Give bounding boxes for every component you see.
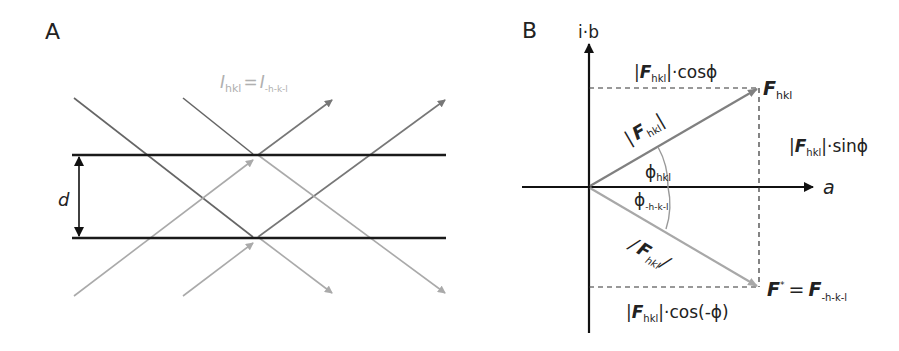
vector-F-friedel [590,188,757,286]
diffracted-ray-friedel-2 [258,237,332,293]
real-axis-label: a [823,176,835,198]
incident-ray-2 [183,98,253,154]
panel-b: B i·b a Fhkl F*=F-h-k-l |Fhkl| /Fhkl/ ϕh… [522,18,868,333]
incident-ray-1 [74,98,253,237]
incident-ray-friedel-2 [183,243,253,296]
diffracted-ray-2 [258,100,445,237]
figure: A Ihkl=I-h-k-l d B i·b a [0,0,899,351]
vector-F-hkl [590,89,757,186]
phase-hkl-label: ϕhkl [645,162,671,183]
panel-b-label: B [522,18,537,43]
cos-bottom-label: |Fhkl|·cos(-ϕ) [626,302,729,324]
F-hkl-label: Fhkl [763,77,792,102]
F-friedel-label: F*=F-h-k-l [767,278,847,303]
cos-top-label: |Fhkl|·cosϕ [634,62,717,84]
d-spacing-label: d [58,189,70,210]
panel-a-label: A [45,19,60,44]
diffracted-ray-friedel-1 [258,155,445,293]
incident-ray-friedel-1 [74,160,253,296]
panel-a: A Ihkl=I-h-k-l d [45,19,446,296]
imaginary-axis-label: i·b [578,22,599,42]
magnitude-bottom-label: /Fhkl/ [623,232,675,275]
sin-right-label: |Fhkl|·sinϕ [789,136,868,158]
phase-friedel-label: ϕ-h-k-l [634,190,668,212]
intensity-equation: Ihkl=I-h-k-l [220,72,288,95]
diffracted-ray-1 [258,100,332,155]
